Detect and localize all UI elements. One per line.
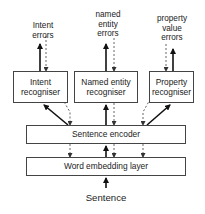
ner-errors-line2: entity <box>83 20 133 30</box>
intent-recogniser-box: Intent recogniser <box>13 71 68 103</box>
word-embedding-label: Word embedding layer <box>64 161 148 172</box>
sentence-encoder-box: Sentence encoder <box>26 125 186 144</box>
property-errors-line2: value <box>147 24 197 34</box>
ner-errors-label: named entity errors <box>83 10 133 39</box>
ner-line2: recogniser <box>81 87 130 98</box>
intent-recogniser-line1: Intent <box>21 77 60 88</box>
property-errors-line3: errors <box>147 33 197 43</box>
intent-recogniser-line2: recogniser <box>21 87 60 98</box>
sentence-encoder-label: Sentence encoder <box>72 129 140 140</box>
named-entity-recogniser-box: Named entity recogniser <box>74 71 138 103</box>
encoder-to-intent-arrow <box>44 105 68 125</box>
intent-errors-label: Intent errors <box>18 21 68 40</box>
ner-errors-line3: errors <box>83 29 133 39</box>
sentence-input-label: Sentence <box>76 192 136 203</box>
intent-errors-line1: Intent <box>18 21 68 31</box>
sentence-input-text: Sentence <box>86 192 127 203</box>
encoder-to-property-arrow <box>147 105 170 125</box>
property-recogniser-box: Property recogniser <box>149 71 194 103</box>
property-errors-line1: property <box>147 14 197 24</box>
property-recogniser-line2: recogniser <box>152 87 191 98</box>
ner-line1: Named entity <box>81 77 130 88</box>
word-embedding-layer-box: Word embedding layer <box>26 157 186 176</box>
ner-errors-line1: named <box>83 10 133 20</box>
intent-errors-line2: errors <box>18 31 68 41</box>
property-recogniser-line1: Property <box>152 77 191 88</box>
property-errors-label: property value errors <box>147 14 197 43</box>
